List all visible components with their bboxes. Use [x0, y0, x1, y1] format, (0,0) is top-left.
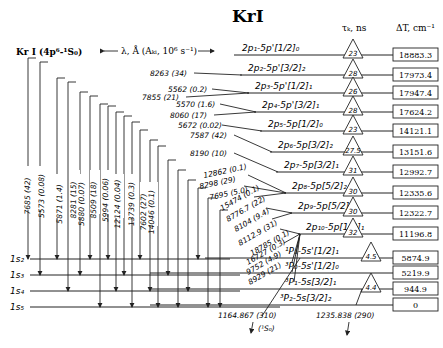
upper-level-label: 2p₃-5p'[1/2]₁	[255, 81, 313, 91]
upper-level-label: 2p₈-5p[5/2]₂	[292, 181, 347, 191]
transition-label: 7685 (42)	[23, 177, 32, 214]
energy-value: 12322.7	[399, 209, 432, 218]
energy-value: 12992.7	[399, 168, 432, 177]
energy-value: 17624.2	[399, 108, 432, 117]
delta-t-header: ΔT, cm⁻¹	[396, 23, 435, 33]
transition-label: 5994 (0.06)	[101, 178, 110, 222]
resonance-sublabel: (¹S₀)	[258, 324, 275, 333]
tau-header: τₖ, ns	[342, 23, 367, 33]
transition-line	[214, 112, 256, 115]
upper-level-label: 2p₁-5p'[1/2]₀	[242, 43, 300, 53]
s-level-label: 1s₅	[10, 302, 24, 312]
transition-label: 5570 (1.6)	[176, 100, 215, 109]
energy-value: 17947.4	[399, 89, 432, 98]
lifetime-value: 4.5	[365, 253, 377, 261]
transition-line	[28, 58, 36, 259]
s-level-label: 1s₄	[10, 286, 24, 296]
energy-value: 14121.1	[399, 127, 432, 136]
upper-level-label: 2p₇-5p[3/2]₁	[284, 160, 339, 170]
resonance-arrow	[251, 322, 253, 333]
upper-level-label: 2p₉-5p[5/2]₃	[298, 201, 353, 211]
transition-label: 8190 (10)	[190, 149, 227, 158]
lifetime-value: 26	[349, 88, 358, 96]
resonance-arrow	[347, 322, 349, 335]
transition-line	[222, 125, 262, 131]
transition-label: 7587 (42)	[190, 131, 227, 140]
lower-level-label: ³P₂-5s[3/2]₂	[280, 293, 332, 303]
transition-label: 7855 (21)	[142, 93, 179, 102]
lifetime-value: 28	[349, 107, 358, 115]
ground-state-label: Kr I (4p⁶-¹S₀)	[16, 47, 82, 57]
lifetime-value: 27.5	[345, 147, 361, 155]
transition-label: 5672 (0.02)	[178, 121, 222, 130]
upper-level-label: 2p₅-5p[1/2]₀	[268, 119, 323, 129]
transition-line	[234, 135, 272, 152]
transition-label: 5573 (0.08)	[37, 174, 46, 218]
upper-level-label: 2p₆-5p[3/2]₂	[278, 140, 333, 150]
transition-label: 5871 (1.4)	[55, 184, 64, 223]
energy-level-diagram: KrI τₖ, ns ΔT, cm⁻¹ Kr I (4p⁶-¹S₀) λ, Å …	[0, 0, 443, 348]
lifetime-value: 23	[349, 50, 358, 58]
upper-level-label: 2p₄-5p'[3/2]₁	[262, 100, 320, 110]
transition-label: 8263 (34)	[150, 69, 187, 78]
lifetime-value: 4.4	[365, 284, 376, 292]
energy-value: 5874.9	[402, 254, 430, 263]
energy-value: 13151.6	[399, 148, 432, 157]
lifetime-value: 31	[349, 167, 358, 175]
energy-value: 18883.3	[399, 51, 432, 60]
resonance-line	[356, 289, 362, 305]
transition-line	[168, 160, 176, 275]
transition-line	[194, 73, 242, 75]
transition-label: 12124 (0.04)	[113, 180, 122, 229]
resonance-label: 1235.838 (290)	[316, 311, 374, 320]
lifetime-value: 23	[349, 126, 358, 134]
energy-value: 0	[413, 301, 418, 310]
diagram-title: KrI	[232, 6, 264, 26]
energy-value: 11196.8	[399, 230, 432, 239]
transition-label: 13739 (0.3)	[127, 182, 136, 226]
lifetime-value: 32	[349, 229, 358, 237]
wavelength-label: λ, Å (Aₖᵢ, 10⁶ s⁻¹)	[121, 45, 197, 56]
transition-line	[272, 213, 292, 219]
transition-label: 5880 (0.07)	[77, 182, 86, 226]
lifetime-value: 30	[349, 208, 358, 216]
s-level-label: 1s₃	[10, 270, 24, 280]
transition-line	[198, 188, 206, 259]
transition-line	[220, 104, 256, 112]
transition-label: 8060 (17)	[170, 111, 207, 120]
upper-level-label: 2p₂-5p'[3/2]₂	[248, 63, 306, 73]
resonance-label: 1164.867 (310)	[218, 311, 276, 320]
lower-level-label: ¹P₁-5s'[1/2]₁	[285, 246, 339, 256]
transition-line	[57, 78, 65, 259]
energy-value: 12335.6	[399, 189, 432, 198]
transition-line	[178, 170, 186, 307]
lower-level-label: ³P₁-5s[3/2]₁	[285, 277, 337, 287]
transition-label: 14046 (0.1)	[147, 190, 156, 234]
energy-value: 5219.9	[402, 269, 430, 278]
energy-value: 17973.4	[399, 71, 432, 80]
s-level-label: 1s₂	[10, 254, 24, 264]
energy-value: 944.9	[404, 285, 427, 294]
transition-label: 8509 (18)	[89, 181, 98, 218]
transition-line	[188, 180, 196, 291]
transition-line	[158, 146, 166, 307]
transition-line	[212, 89, 249, 93]
lifetime-value: 30	[349, 188, 358, 196]
